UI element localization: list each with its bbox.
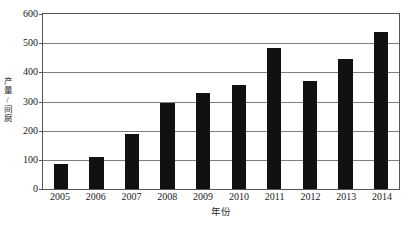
bars-layer <box>43 14 399 189</box>
y-axis-tick-labels: 0100200300400500600 <box>14 13 40 190</box>
bar <box>54 164 68 189</box>
x-axis-title: 年份 <box>42 208 400 218</box>
bar-slot <box>185 14 221 189</box>
x-axis-tick-label: 2010 <box>221 192 257 202</box>
bar <box>303 81 317 189</box>
y-axis-title: 产量/间腐 <box>0 60 14 140</box>
bar <box>267 48 281 189</box>
y-axis-tick-mark <box>39 189 43 190</box>
x-axis-tick-label: 2005 <box>42 192 78 202</box>
y-axis-tick-label: 200 <box>23 126 38 136</box>
x-axis-tick-label: 2007 <box>114 192 150 202</box>
x-axis-tick-label: 2006 <box>78 192 114 202</box>
x-axis-tick-label: 2009 <box>185 192 221 202</box>
y-axis-tick-label: 300 <box>23 97 38 107</box>
bar-slot <box>43 14 79 189</box>
y-axis-tick-label: 400 <box>23 67 38 77</box>
x-axis-tick-label: 2013 <box>328 192 364 202</box>
plot-area <box>42 13 400 190</box>
bar-slot <box>79 14 115 189</box>
bar <box>338 59 352 189</box>
bar <box>232 85 246 189</box>
bar-slot <box>292 14 328 189</box>
x-axis-tick-labels: 2005200620072008200920102011201220132014 <box>42 192 400 206</box>
bar <box>196 93 210 189</box>
bar <box>125 134 139 189</box>
y-axis-tick-label: 500 <box>23 38 38 48</box>
bar-slot <box>114 14 150 189</box>
x-axis-tick-label: 2008 <box>149 192 185 202</box>
y-axis-tick-label: 0 <box>33 184 38 194</box>
y-axis-tick-label: 600 <box>23 9 38 19</box>
bar-slot <box>257 14 293 189</box>
bar-slot <box>328 14 364 189</box>
x-axis-tick-label: 2012 <box>293 192 329 202</box>
bar <box>374 32 388 190</box>
x-axis-tick-label: 2014 <box>364 192 400 202</box>
bar-slot <box>221 14 257 189</box>
y-axis-tick-label: 100 <box>23 155 38 165</box>
bar-slot <box>150 14 186 189</box>
bar <box>160 103 174 189</box>
bar-slot <box>363 14 399 189</box>
bar <box>89 157 103 189</box>
bar-chart: 产量/间腐 0100200300400500600 20052006200720… <box>0 0 414 228</box>
x-axis-tick-label: 2011 <box>257 192 293 202</box>
